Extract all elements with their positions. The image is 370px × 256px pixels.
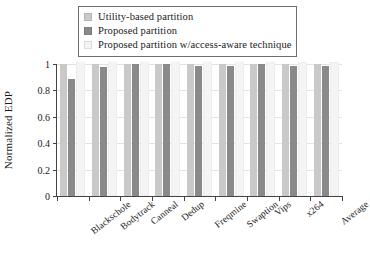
bar — [330, 62, 339, 196]
bar — [250, 64, 257, 196]
bar-group — [57, 64, 89, 196]
x-axis-tick-label: Average — [339, 199, 370, 227]
chart-legend: Utility-based partition Proposed partiti… — [78, 6, 297, 57]
bar — [132, 64, 139, 196]
bar — [76, 62, 85, 196]
bar — [219, 64, 226, 196]
bar-group — [279, 64, 311, 196]
y-axis-title: Normalized EDP — [2, 64, 16, 196]
x-axis-tick-label: x264 — [305, 199, 326, 219]
legend-item-proposed-partition-access-aware: Proposed partition w/access-aware techni… — [84, 38, 291, 52]
bar-group — [310, 64, 342, 196]
bar-group — [184, 64, 216, 196]
x-axis-labels: BlackscholeBodytrackCannealDedupFreqmine… — [56, 199, 341, 255]
bar — [290, 66, 297, 196]
bar — [100, 67, 107, 196]
bar — [68, 79, 75, 196]
bar-group — [152, 64, 184, 196]
bar — [258, 64, 265, 196]
legend-swatch-icon — [84, 13, 92, 21]
bar — [163, 64, 170, 196]
legend-swatch-icon — [84, 27, 92, 35]
bar — [108, 62, 117, 196]
bar — [124, 64, 131, 196]
plot-area: 00.20.40.60.81 — [56, 64, 342, 197]
legend-item-proposed-partition: Proposed partition — [84, 24, 291, 38]
bar — [187, 64, 194, 196]
bar — [60, 64, 67, 196]
y-axis-tick-label: 0 — [45, 191, 50, 202]
x-axis-tick-label: Freqmine — [213, 199, 248, 230]
bar — [155, 64, 162, 196]
bar — [92, 64, 99, 196]
x-axis-tick — [342, 196, 343, 201]
bar-group — [215, 64, 247, 196]
y-axis-tick-label: 0.6 — [38, 111, 51, 122]
legend-swatch-icon — [84, 41, 92, 49]
bar — [235, 62, 244, 196]
bar — [282, 64, 289, 196]
legend-item-label: Proposed partition — [98, 24, 177, 38]
x-axis-tick-label: Dedup — [179, 199, 206, 223]
legend-item-utility-based-partition: Utility-based partition — [84, 10, 291, 24]
bar — [171, 62, 180, 196]
legend-item-label: Proposed partition w/access-aware techni… — [98, 38, 292, 52]
bar-group — [247, 64, 279, 196]
bar — [227, 66, 234, 196]
x-axis-tick-label: Swaption — [245, 199, 280, 229]
y-axis-tick-label: 0.8 — [38, 85, 51, 96]
bar — [140, 62, 149, 196]
bar — [195, 66, 202, 196]
bar — [298, 62, 307, 196]
bar — [266, 62, 275, 196]
bar-group — [89, 64, 121, 196]
bar-group — [120, 64, 152, 196]
bar — [203, 62, 212, 196]
y-axis-tick-label: 1 — [45, 59, 50, 70]
legend-item-label: Utility-based partition — [98, 10, 193, 24]
y-axis-tick-label: 0.2 — [38, 164, 51, 175]
bar — [322, 66, 329, 196]
bar-groups — [57, 64, 342, 196]
bar — [314, 64, 321, 196]
y-axis-tick-label: 0.4 — [38, 138, 51, 149]
